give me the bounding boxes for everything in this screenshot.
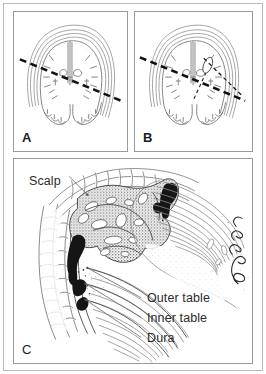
figure-root: A [0,0,266,374]
leader-dot-outer-table [86,267,88,269]
leader-inner-table [85,284,141,318]
panel-a: A [13,11,128,152]
callout-scalp: Scalp [29,175,61,188]
right-field-flecks [206,238,228,266]
artist-signature [230,217,246,284]
leader-dura [85,300,141,338]
leader-dot-scalp [86,193,88,195]
panel-c-illustration [14,159,252,363]
panel-b-trajectory-line-tertiary [194,73,206,99]
panel-a-letter: A [22,131,32,144]
callout-dura: Dura [147,332,175,345]
callout-inner-table: Inner table [147,312,207,325]
panel-b-trajectory-line-primary [140,57,245,100]
panel-c-letter: C [22,343,32,356]
leader-dot-dura [84,298,86,300]
panel-b: B [134,11,253,152]
panel-b-letter: B [143,131,153,144]
panel-b-lesion-oval [201,56,215,75]
panel-c: Scalp Outer table Inner table Dura C [13,158,253,364]
leader-dot-inner-table [84,283,86,285]
callout-outer-table: Outer table [147,292,210,305]
